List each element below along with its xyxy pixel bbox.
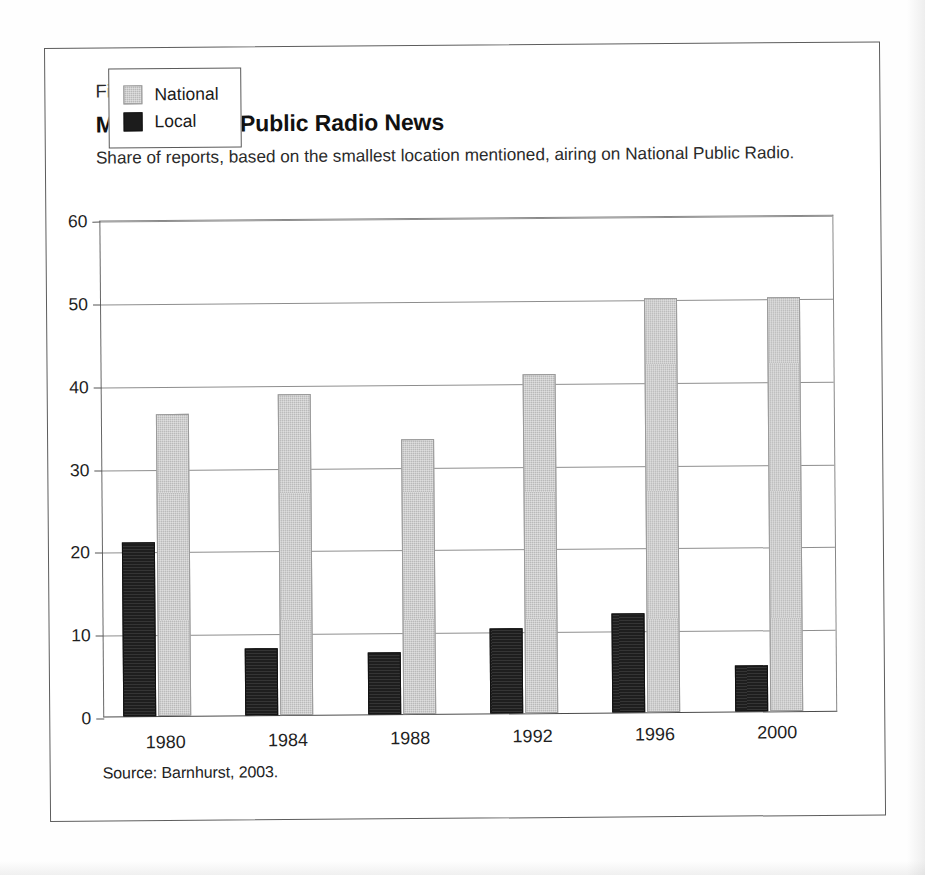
bar-national-1988[interactable] — [401, 439, 436, 714]
bar-local-1980[interactable] — [122, 542, 156, 716]
y-tick-10 — [96, 636, 104, 637]
bar-local-2000[interactable] — [735, 666, 768, 712]
y-tick-label-60: 60 — [68, 211, 88, 232]
y-tick-label-50: 50 — [68, 294, 88, 315]
legend-label-national: National — [154, 84, 218, 106]
source-note: Source: Barnhurst, 2003. — [103, 763, 279, 782]
bar-local-1984[interactable] — [245, 648, 279, 715]
y-tick-20 — [95, 553, 103, 554]
y-tick-label-40: 40 — [69, 377, 89, 398]
chart-plot-wrapper: 0102030405060198019841988199219962000 Na… — [45, 42, 885, 821]
bar-group-2000: 2000 — [712, 216, 838, 712]
legend-swatch-local-icon — [124, 112, 143, 131]
chart-legend: National Local — [108, 67, 242, 148]
x-tick-label-1988: 1988 — [349, 728, 471, 750]
y-tick-label-20: 20 — [70, 542, 90, 563]
bar-national-1992[interactable] — [523, 374, 559, 713]
y-tick-0 — [96, 719, 104, 720]
figure-inner: Figure 11.2 More Distant Public Radio Ne… — [45, 42, 885, 821]
chart-plot-area: 0102030405060198019841988199219962000 — [99, 215, 837, 718]
y-tick-label-30: 30 — [70, 460, 90, 481]
x-tick-label-1980: 1980 — [104, 732, 226, 754]
scanned-page: Figure 11.2 More Distant Public Radio Ne… — [0, 0, 925, 875]
y-tick-40 — [94, 387, 102, 388]
legend-item-local: Local — [123, 108, 218, 136]
x-tick-label-2000: 2000 — [716, 722, 838, 744]
bar-group-1996: 1996 — [590, 217, 716, 713]
y-tick-label-10: 10 — [71, 625, 91, 646]
x-tick-label-1992: 1992 — [471, 726, 593, 748]
legend-swatch-national-icon — [123, 85, 142, 104]
figure-frame: Figure 11.2 More Distant Public Radio Ne… — [44, 41, 886, 822]
y-tick-30 — [94, 470, 102, 471]
bar-local-1996[interactable] — [612, 614, 646, 713]
bar-national-2000[interactable] — [767, 297, 803, 711]
bar-group-1984: 1984 — [223, 220, 349, 716]
bar-national-1996[interactable] — [644, 298, 680, 712]
scan-edge-shading-right — [907, 0, 925, 875]
y-tick-60 — [92, 222, 100, 223]
x-tick-label-1984: 1984 — [227, 730, 349, 752]
bar-group-1980: 1980 — [100, 221, 226, 717]
bar-group-1992: 1992 — [467, 218, 593, 714]
scan-edge-shading-bottom — [0, 861, 925, 875]
bar-national-1980[interactable] — [156, 414, 191, 717]
bar-group-1988: 1988 — [345, 219, 471, 715]
legend-label-local: Local — [154, 111, 196, 132]
bar-local-1992[interactable] — [490, 628, 524, 714]
legend-item-national: National — [123, 81, 218, 109]
y-tick-label-0: 0 — [81, 708, 91, 729]
bar-local-1988[interactable] — [368, 652, 401, 714]
bar-national-1984[interactable] — [278, 394, 314, 716]
y-tick-50 — [93, 304, 101, 305]
x-tick-label-1996: 1996 — [594, 724, 716, 746]
